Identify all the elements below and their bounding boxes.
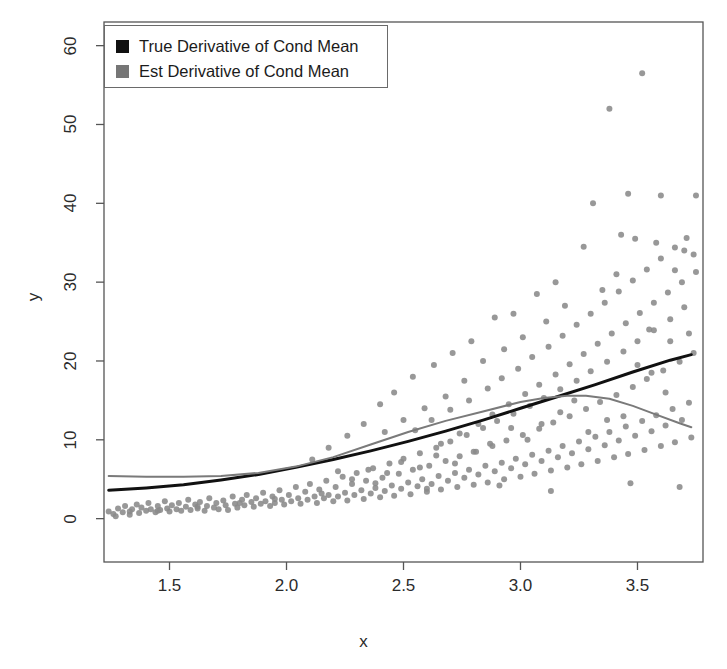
scatter-point (307, 481, 313, 487)
scatter-point (534, 291, 540, 297)
scatter-point (508, 425, 514, 431)
scatter-point (677, 484, 683, 490)
scatter-point (681, 248, 687, 254)
scatter-points-group (106, 70, 699, 519)
scatter-point (548, 488, 554, 494)
scatter-point (649, 428, 655, 434)
scatter-point (522, 461, 528, 467)
scatter-point (466, 467, 472, 473)
scatter-point (684, 235, 690, 241)
scatter-point (410, 467, 416, 473)
scatter-point (539, 421, 545, 427)
scatter-point (485, 386, 491, 392)
scatter-point (298, 501, 304, 507)
scatter-point (335, 468, 341, 474)
scatter-point (597, 399, 603, 405)
legend-swatch-est (116, 65, 129, 78)
scatter-point (382, 429, 388, 435)
scatter-point (377, 494, 383, 500)
scatter-point (599, 287, 605, 293)
scatter-point (555, 454, 561, 460)
scatter-point (349, 476, 355, 482)
scatter-point (136, 510, 142, 516)
scatter-point (253, 495, 259, 501)
scatter-point (260, 490, 266, 496)
scatter-point (672, 267, 678, 273)
scatter-point (658, 443, 664, 449)
scatter-point (230, 494, 236, 500)
scatter-point (667, 316, 673, 322)
scatter-point (426, 463, 432, 469)
scatter-point (606, 106, 612, 112)
scatter-point (658, 192, 664, 198)
scatter-point (386, 460, 392, 466)
scatter-point (429, 481, 435, 487)
scatter-point (623, 320, 629, 326)
scatter-point (653, 240, 659, 246)
scatter-point (361, 421, 367, 427)
scatter-point (613, 271, 619, 277)
scatter-point (616, 289, 622, 295)
scatter-point (443, 393, 449, 399)
scatter-point (391, 390, 397, 396)
scatter-point (611, 454, 617, 460)
scatter-point (204, 503, 210, 509)
scatter-point (344, 433, 350, 439)
scatter-point (443, 458, 449, 464)
scatter-point (590, 200, 596, 206)
scatter-point (457, 431, 463, 437)
scatter-point (433, 445, 439, 451)
scatter-point (382, 488, 388, 494)
trend-line (109, 396, 692, 477)
scatter-point (464, 432, 470, 438)
scatter-point (422, 405, 428, 411)
scatter-point (391, 493, 397, 499)
scatter-point (517, 474, 523, 480)
scatter-point (213, 500, 219, 506)
scatter-point (585, 446, 591, 452)
scatter-point (546, 344, 552, 350)
scatter-point (560, 443, 566, 449)
scatter-point (122, 503, 128, 509)
scatter-point (438, 441, 444, 447)
scatter-point (471, 449, 477, 455)
scatter-point (237, 500, 243, 506)
scatter-point (216, 506, 222, 512)
scatter-point (176, 500, 182, 506)
scatter-point (501, 346, 507, 352)
scatter-point (604, 359, 610, 365)
scatter-point (302, 489, 308, 495)
scatter-point (344, 498, 350, 504)
scatter-point (595, 458, 601, 464)
scatter-point (461, 475, 467, 481)
scatter-point (646, 326, 652, 332)
scatter-point (471, 482, 477, 488)
scatter-point (288, 498, 294, 504)
scatter-point (639, 70, 645, 76)
scatter-point (520, 432, 526, 438)
scatter-point (319, 490, 325, 496)
scatter-point (167, 509, 173, 515)
scatter-point (358, 487, 364, 493)
scatter-point (625, 451, 631, 457)
scatter-point (450, 350, 456, 356)
scatter-point (368, 490, 374, 496)
scatter-point (115, 505, 121, 511)
scatter-point (410, 374, 416, 380)
scatter-point (457, 453, 463, 459)
scatter-point (433, 453, 439, 459)
scatter-point (351, 492, 357, 498)
scatter-point (185, 497, 191, 503)
scatter-point (529, 354, 535, 360)
scatter-point (314, 500, 320, 506)
y-tick-label: 10 (61, 425, 81, 455)
scatter-point (553, 371, 559, 377)
scatter-point (569, 450, 575, 456)
scatter-point (129, 506, 135, 512)
scatter-point (431, 362, 437, 368)
scatter-point (492, 315, 498, 321)
scatter-point (539, 458, 545, 464)
scatter-point (424, 486, 430, 492)
scatter-point (508, 465, 514, 471)
scatter-point (342, 490, 348, 496)
